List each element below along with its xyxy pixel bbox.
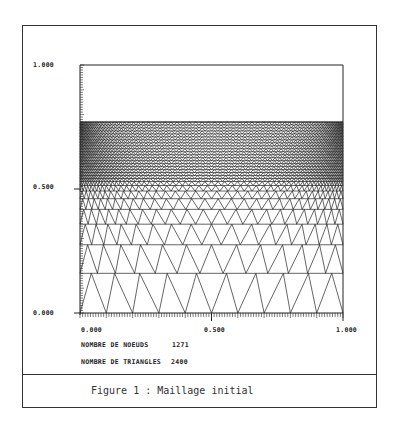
y-tick-label-1: 1.000: [33, 61, 54, 69]
triangles-count-value: 2400: [171, 358, 188, 366]
x-tick-label-0-5: 0.500: [204, 326, 225, 334]
y-tick-label-0-5: 0.500: [33, 183, 54, 191]
x-tick-label-1: 1.000: [336, 326, 357, 334]
nodes-count-label: NOMBRE DE NOEUDS: [81, 341, 148, 349]
y-tick-label-0: 0.000: [33, 309, 54, 317]
x-tick-label-0: 0.000: [81, 326, 102, 334]
triangles-count-label: NOMBRE DE TRIANGLES: [81, 358, 161, 366]
figure-caption: Figure 1 : Maillage initial: [91, 385, 254, 396]
nodes-count-value: 1271: [172, 341, 189, 349]
mesh-plot: [0, 0, 398, 433]
